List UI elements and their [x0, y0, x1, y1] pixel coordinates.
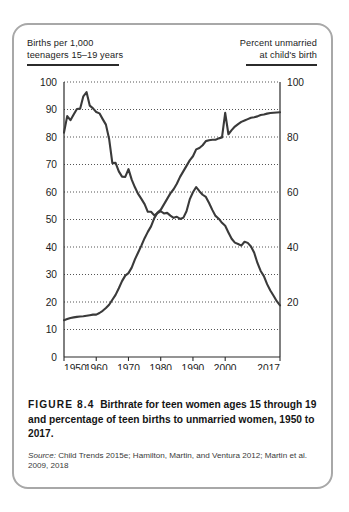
- y-axis-left-tick-label: 60: [46, 187, 58, 198]
- y-axis-left-tick-label: 10: [46, 324, 58, 335]
- y-axis-left-tick-label: 30: [46, 269, 58, 280]
- caption-block: FIGURE 8.4 Birthrate for teen women ages…: [28, 398, 318, 472]
- x-axis-tick-label: 1970: [117, 363, 140, 370]
- y-axis-right-tick-label: 20: [287, 297, 299, 308]
- y-axis-right-labels: 20406080100: [287, 77, 304, 308]
- dual-axis-line-chart: 0102030405060708090100 20406080100 19501…: [14, 72, 330, 370]
- right-axis-title: Percent unmarried at child's birth: [240, 38, 317, 61]
- left-axis-rule: [27, 64, 119, 66]
- y-axis-left-tick-label: 80: [46, 132, 58, 143]
- x-axis-tick-label: 1980: [149, 363, 172, 370]
- y-axis-left-tick-label: 0: [51, 352, 57, 363]
- series-line: [64, 92, 280, 305]
- x-axis-tick-label: 1960: [85, 363, 108, 370]
- y-axis-left-labels: 0102030405060708090100: [40, 77, 57, 363]
- y-axis-left-tick-label: 100: [40, 77, 57, 88]
- right-axis-rule: [246, 64, 317, 66]
- source-label: Source:: [28, 451, 56, 460]
- y-axis-right-tick-label: 80: [287, 132, 299, 143]
- x-axis-labels: 1950196019701980199020002017: [64, 363, 280, 370]
- figure-caption: FIGURE 8.4 Birthrate for teen women ages…: [28, 398, 318, 442]
- y-axis-left-tick-label: 50: [46, 214, 58, 225]
- figure-card: Births per 1,000 teenagers 15–19 years P…: [12, 23, 333, 489]
- y-axis-right-tick-label: 60: [287, 187, 299, 198]
- x-axis-tick-label: 2000: [214, 363, 237, 370]
- left-axis-title-line2: teenagers 15–19 years: [27, 50, 123, 62]
- right-axis-title-line2: at child's birth: [240, 50, 317, 62]
- chart-plot-area: 0102030405060708090100 20406080100 19501…: [14, 72, 330, 370]
- x-axis-tick-label: 2017: [257, 363, 280, 370]
- left-axis-title-line1: Births per 1,000: [27, 38, 123, 50]
- y-axis-right-tick-label: 100: [287, 77, 304, 88]
- figure-number: FIGURE 8.4: [28, 399, 94, 410]
- y-axis-left-tick-label: 70: [46, 159, 58, 170]
- y-axis-left-tick-label: 40: [46, 242, 58, 253]
- figure-source: Source: Child Trends 2015e; Hamilton, Ma…: [28, 451, 318, 472]
- right-axis-title-line1: Percent unmarried: [240, 38, 317, 50]
- x-axis-tick-label: 1990: [182, 363, 205, 370]
- y-axis-right-tick-label: 40: [287, 242, 299, 253]
- y-axis-left-tick-label: 90: [46, 104, 58, 115]
- data-series: [64, 92, 280, 320]
- y-axis-left-tick-label: 20: [46, 297, 58, 308]
- source-body: Child Trends 2015e; Hamilton, Martin, an…: [28, 451, 307, 471]
- x-axis-tick-label: 1950: [64, 363, 87, 370]
- left-axis-title: Births per 1,000 teenagers 15–19 years: [27, 38, 123, 61]
